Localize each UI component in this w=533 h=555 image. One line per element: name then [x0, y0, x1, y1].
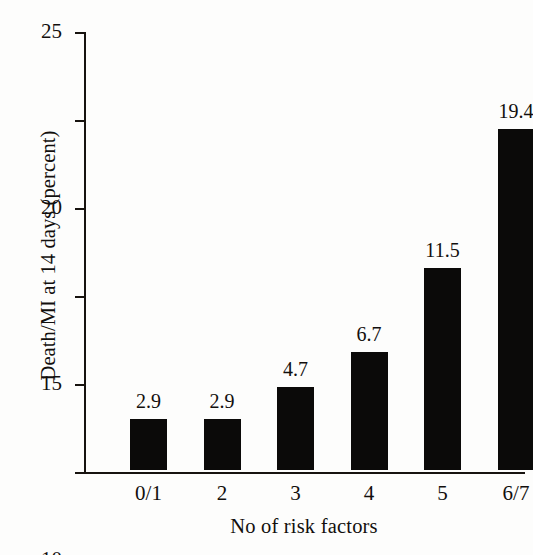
x-tick-label: 2 [217, 481, 228, 506]
y-tick-mark: 5 [75, 384, 85, 386]
x-axis-title: No of risk factors [84, 515, 524, 538]
bar[interactable]: 11.55 [424, 268, 461, 470]
y-axis-line [84, 32, 86, 473]
plot-area: 0510152025 2.90/12.924.736.7411.5519.46/… [84, 32, 532, 472]
y-tick-mark: 15 [75, 208, 85, 210]
x-tick-label: 4 [364, 481, 375, 506]
bar-chart-figure: Death/MI at 14 days (percent) 0510152025… [0, 0, 533, 555]
bar[interactable]: 4.73 [277, 387, 314, 470]
y-tick-mark: 0 [75, 472, 85, 474]
y-tick-mark: 10 [75, 296, 85, 298]
bar-value-label: 6.7 [357, 323, 382, 346]
x-tick-label: 0/1 [135, 481, 162, 506]
bar[interactable]: 19.46/7 [498, 129, 533, 470]
bar[interactable]: 6.74 [351, 352, 388, 470]
y-tick-label: 10 [41, 547, 62, 555]
bar[interactable]: 2.90/1 [130, 419, 167, 470]
bar-value-label: 11.5 [425, 239, 459, 262]
y-tick-mark: 20 [75, 120, 85, 122]
bar[interactable]: 2.92 [204, 419, 241, 470]
y-tick-label: 25 [41, 19, 62, 44]
bar-value-label: 4.7 [283, 358, 308, 381]
bar-value-label: 2.9 [210, 390, 235, 413]
x-axis-line [84, 472, 525, 474]
bar-value-label: 19.4 [499, 100, 533, 123]
x-tick-label: 3 [290, 481, 301, 506]
x-tick-label: 6/7 [503, 481, 530, 506]
y-tick-label: 15 [41, 371, 62, 396]
y-tick-mark: 25 [75, 32, 85, 34]
x-tick-label: 5 [437, 481, 448, 506]
bar-value-label: 2.9 [136, 390, 161, 413]
y-tick-label: 20 [41, 195, 62, 220]
